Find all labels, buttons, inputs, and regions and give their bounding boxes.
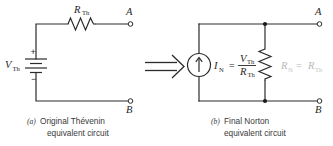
resistor-rth-label-sub-2: Th [315,66,323,73]
terminal-a-label-right: A [314,6,322,17]
current-source-fraction: V Th R Th [238,53,256,78]
current-source-label-main: I [213,60,218,71]
resistor-rth-label-main-2: R [307,60,315,71]
circuit-figure: R Th A + − V Th B (a) [0,0,333,146]
caption-b-tag: (b) [211,117,220,126]
transform-arrow-icon [145,55,184,78]
terminal-a-circle-right [317,22,322,27]
resistor-rth-label-sub: Th [82,9,90,16]
resistor-rn-label-sub: N [288,66,293,73]
fraction-denominator-sub: Th [248,71,256,78]
terminal-b-circle-right [317,99,322,104]
caption-a-line1: Original Thévenin [40,116,105,126]
terminal-b-label-left: B [126,104,133,115]
junction-dot-bottom [263,99,267,103]
source-vth-label-sub: Th [13,65,21,72]
battery-vth-symbol [25,59,47,73]
caption-b-line2: equivalent circuit [224,128,286,138]
caption-a-line2: equivalent circuit [47,128,109,138]
resistor-rth-label-main: R [73,4,81,15]
panel-a-thevenin-circuit: R Th A + − V Th B (a) [5,4,133,138]
resistor-rn-label-main: R [280,60,288,71]
resistor-rth-symbol [68,18,96,30]
resistor-rn-symbol [259,49,271,81]
wire-top-left [36,24,68,59]
battery-plus-sign: + [31,47,36,57]
terminal-a-label-left: A [125,6,133,17]
current-source-in-symbol [188,54,211,77]
terminal-a-circle-left [128,22,133,27]
terminal-b-label-right: B [315,104,322,115]
caption-a-tag: (a) [27,117,36,126]
junction-dot-top [263,22,267,26]
resistor-rn-equals: = [296,60,302,71]
resistor-rn-label-group: R N = R Th [280,60,323,73]
current-source-label-sub: N [219,66,224,73]
terminal-b-circle-left [128,99,133,104]
wire-bottom-left [36,73,128,102]
panel-b-norton-circuit: I N = V Th R Th R N [188,6,324,138]
fraction-numerator-sub: Th [247,58,255,65]
current-source-equals: = [229,60,235,71]
caption-b-line1: Final Norton [224,116,270,126]
fraction-denominator-main: R [239,66,247,77]
